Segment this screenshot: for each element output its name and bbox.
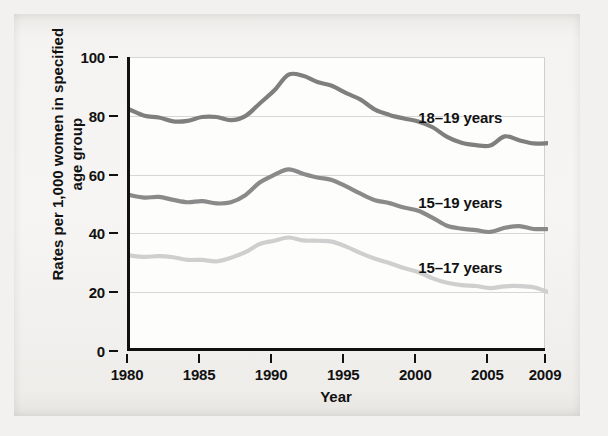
y-axis-tick <box>109 174 118 176</box>
y-axis-tick-label: 20 <box>89 284 105 301</box>
series-label: 15–19 years <box>418 194 502 211</box>
x-axis-tick-label: 1990 <box>255 366 288 383</box>
y-axis-tick <box>109 232 118 234</box>
x-axis-tick <box>198 354 200 363</box>
x-axis-labels: 1980198519901995200020052009 <box>127 354 545 388</box>
x-axis-tick <box>126 354 128 363</box>
x-axis-title: Year <box>127 388 545 405</box>
x-axis-tick <box>342 354 344 363</box>
y-axis-tick-label: 40 <box>89 225 105 242</box>
y-axis-tick-label: 100 <box>81 49 105 66</box>
x-axis-tick <box>544 354 546 363</box>
y-axis-tick <box>109 115 118 117</box>
x-axis-tick-label: 1995 <box>327 366 360 383</box>
x-axis-tick <box>486 354 488 363</box>
y-axis-tick <box>109 291 118 293</box>
y-axis-labels: 020406080100 <box>78 57 120 351</box>
x-axis-tick <box>414 354 416 363</box>
y-axis-tick-label: 0 <box>97 343 105 360</box>
y-axis-tick-label: 60 <box>89 166 105 183</box>
x-axis-tick-label: 1980 <box>111 366 144 383</box>
series-label: 15–17 years <box>418 259 502 276</box>
series-label: 18–19 years <box>418 109 502 126</box>
x-axis-tick-label: 2005 <box>471 366 504 383</box>
x-axis-tick <box>270 354 272 363</box>
y-axis-tick <box>109 56 118 58</box>
y-axis-title-line1: Rates per 1,000 women in specified <box>49 28 66 281</box>
plot-area: 18–19 years15–19 years15–17 years <box>127 57 545 351</box>
y-axis-tick-label: 80 <box>89 107 105 124</box>
x-axis-tick-label: 2000 <box>399 366 432 383</box>
x-axis-tick-label: 1985 <box>183 366 216 383</box>
figure-canvas: Rates per 1,000 women in specified age g… <box>0 0 608 436</box>
x-axis-tick-label: 2009 <box>529 366 562 383</box>
y-axis-tick <box>109 350 118 352</box>
